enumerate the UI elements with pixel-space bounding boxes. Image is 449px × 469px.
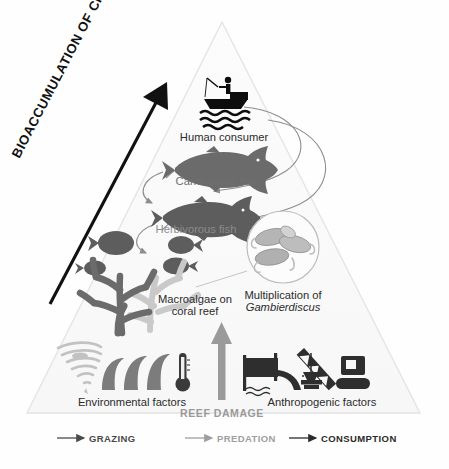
anthropogenic-factors-label: Anthropogenic factors (268, 396, 377, 408)
herbivorous-fish-label: Herbivorous fish (156, 223, 237, 235)
human-consumer-label: Human consumer (180, 131, 268, 143)
macroalgae-label-line2: coral reef (172, 305, 219, 317)
ciguatoxin-bioaccumulation-diagram: BIOACCUMULATION OF CIGUATOXINS Human con… (0, 0, 449, 469)
dinoflagellate-cells-icon (247, 211, 319, 283)
environmental-factors-label: Environmental factors (78, 396, 186, 408)
legend-item-grazing: GRAZING (89, 433, 136, 444)
macroalgae-label: Macroalgae on coral reef (158, 293, 232, 318)
gambierdiscus-label: Multiplication of Gambierdiscus (244, 289, 321, 314)
carnivorous-fish-label: Carnivorous fish (176, 175, 257, 187)
legend-item-predation: PREDATION (217, 433, 276, 444)
gambierdiscus-label-line1: Multiplication of (244, 289, 321, 301)
gambierdiscus-label-line2: Gambierdiscus (246, 301, 321, 313)
reef-damage-label: REEF DAMAGE (180, 408, 264, 420)
legend-item-consumption: CONSUMPTION (321, 433, 397, 444)
macroalgae-label-line1: Macroalgae on (158, 293, 232, 305)
